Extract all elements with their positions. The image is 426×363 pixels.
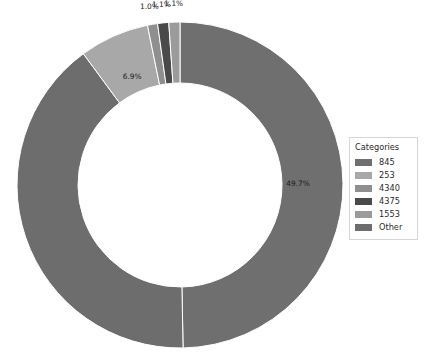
- donut-slice[interactable]: [180, 22, 343, 348]
- legend-swatch: [355, 198, 372, 205]
- slice-percent-label: 6.9%: [123, 72, 142, 81]
- legend-items: 845253434043751553Other: [355, 156, 412, 234]
- legend-swatch: [355, 185, 372, 192]
- donut-slice[interactable]: [17, 54, 183, 348]
- legend-item[interactable]: 1553: [355, 208, 412, 221]
- legend-item-label: 4340: [379, 184, 400, 192]
- legend-item-label: 845: [379, 158, 395, 166]
- legend-swatch: [355, 224, 372, 231]
- legend-item-label: Other: [379, 223, 402, 231]
- donut-chart: 49.7%6.9%1.0%1.1%1.1% Categories 8452534…: [0, 0, 426, 363]
- legend-item-label: 253: [379, 171, 395, 179]
- legend-swatch: [355, 211, 372, 218]
- legend-item-label: 1553: [379, 210, 400, 218]
- legend: Categories 845253434043751553Other: [349, 137, 418, 240]
- legend-item[interactable]: Other: [355, 221, 412, 234]
- legend-swatch: [355, 172, 372, 179]
- legend-item[interactable]: 4340: [355, 182, 412, 195]
- legend-swatch: [355, 159, 372, 166]
- legend-item[interactable]: 4375: [355, 195, 412, 208]
- legend-item[interactable]: 845: [355, 156, 412, 169]
- legend-title: Categories: [355, 142, 412, 152]
- legend-item[interactable]: 253: [355, 169, 412, 182]
- slice-percent-label: 1.1%: [164, 0, 183, 8]
- legend-item-label: 4375: [379, 197, 400, 205]
- slice-percent-label: 49.7%: [286, 179, 309, 188]
